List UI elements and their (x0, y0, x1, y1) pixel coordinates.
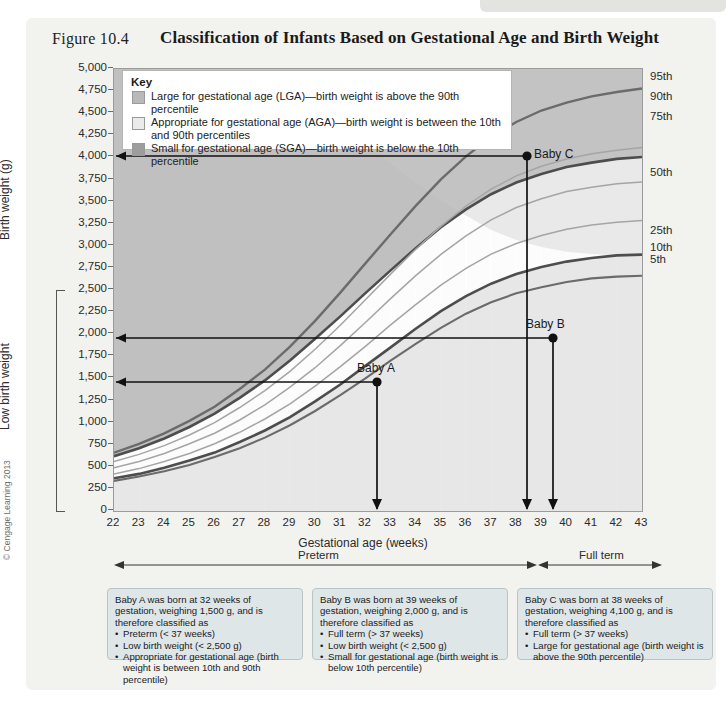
note-b-intro: Baby B was born at 39 weeks of gestation… (320, 594, 500, 628)
figure-page: Figure 10.4 Classification of Infants Ba… (0, 0, 726, 703)
note-a-intro: Baby A was born at 32 weeks of gestation… (115, 594, 295, 628)
note-c-bullets: Full term (> 37 weeks) Large for gestati… (525, 628, 705, 662)
note-c-bullet-1: Full term (> 37 weeks) (525, 628, 705, 639)
note-baby-b: Baby B was born at 39 weeks of gestation… (312, 588, 508, 660)
baby-b-marker (548, 333, 557, 342)
key-title: Key (131, 76, 504, 88)
baby-a-marker (372, 377, 381, 386)
x-tick-27: 27 (227, 516, 251, 528)
y-tick-mark (108, 310, 113, 311)
x-tick-41: 41 (579, 516, 603, 528)
key-item-lga: Large for gestational age (LGA)—birth we… (130, 90, 504, 115)
y-tick-mark (108, 354, 113, 355)
y-tick-3250: 3,250 (51, 216, 107, 228)
baby-c-marker (522, 151, 531, 160)
note-b-bullet-2: Low birth weight (< 2,500 g) (320, 640, 500, 651)
y-tick-mark (108, 133, 113, 134)
lga-swatch-icon (132, 91, 145, 104)
key-item-lga-label: Large for gestational age (LGA)—birth we… (151, 90, 504, 115)
y-tick-mark (108, 487, 113, 488)
x-tick-35: 35 (428, 516, 452, 528)
sga-swatch-icon (132, 143, 145, 156)
y-tick-4500: 4,500 (51, 105, 107, 117)
y-tick-mark (108, 178, 113, 179)
aga-swatch-icon (132, 117, 145, 130)
percentile-label-75th: 75th (650, 110, 672, 122)
key-item-aga: Appropriate for gestational age (AGA)—bi… (130, 116, 504, 141)
percentile-label-50th: 50th (650, 166, 672, 178)
x-axis-label: Gestational age (weeks) (0, 536, 726, 550)
y-tick-2750: 2,750 (51, 260, 107, 272)
x-tick-34: 34 (403, 516, 427, 528)
percentile-label-10th: 10th (650, 241, 672, 253)
y-tick-4000: 4,000 (51, 149, 107, 161)
x-tick-24: 24 (151, 516, 175, 528)
y-tick-mark (108, 465, 113, 466)
note-a-bullet-1: Preterm (< 37 weeks) (115, 628, 295, 639)
note-b-bullet-1: Full term (> 37 weeks) (320, 628, 500, 639)
y-axis-label: Birth weight (g) (0, 159, 12, 240)
y-tick-mark (108, 155, 113, 156)
y-tick-mark (108, 399, 113, 400)
low-birth-weight-bracket (56, 290, 65, 512)
note-a-bullets: Preterm (< 37 weeks) Low birth weight (<… (115, 628, 295, 685)
x-tick-32: 32 (352, 516, 376, 528)
x-tick-26: 26 (202, 516, 226, 528)
x-tick-25: 25 (176, 516, 200, 528)
chart-key: Key Large for gestational age (LGA)—birt… (122, 70, 512, 150)
x-tick-38: 38 (503, 516, 527, 528)
x-tick-33: 33 (378, 516, 402, 528)
note-a-bullet-2: Low birth weight (< 2,500 g) (115, 640, 295, 651)
top-decoration-bar (480, 0, 726, 12)
x-tick-22: 22 (101, 516, 125, 528)
x-tick-42: 42 (604, 516, 628, 528)
y-tick-mark (108, 376, 113, 377)
full-term-label: Full term (574, 549, 629, 561)
x-tick-28: 28 (252, 516, 276, 528)
y-tick-mark (108, 266, 113, 267)
y-tick-3000: 3,000 (51, 238, 107, 250)
x-tick-37: 37 (478, 516, 502, 528)
note-baby-c: Baby C was born at 38 weeks of gestation… (517, 588, 713, 660)
percentile-label-95th: 95th (650, 70, 672, 82)
x-tick-36: 36 (453, 516, 477, 528)
y-tick-mark (108, 67, 113, 68)
y-tick-mark (108, 443, 113, 444)
y-tick-mark (108, 200, 113, 201)
percentile-label-90th: 90th (650, 90, 672, 102)
y-tick-mark (108, 288, 113, 289)
y-tick-mark (108, 244, 113, 245)
preterm-label: Preterm (293, 549, 344, 561)
baby-c-label: Baby C (534, 147, 573, 161)
baby-b-label: Baby B (526, 317, 565, 331)
x-tick-23: 23 (126, 516, 150, 528)
y-tick-mark (108, 89, 113, 90)
y-tick-4750: 4,750 (51, 83, 107, 95)
y-tick-5000: 5,000 (51, 61, 107, 73)
y-tick-mark (108, 421, 113, 422)
x-tick-29: 29 (277, 516, 301, 528)
note-b-bullets: Full term (> 37 weeks) Low birth weight … (320, 628, 500, 674)
y-tick-mark (108, 111, 113, 112)
y-tick-mark (108, 332, 113, 333)
percentile-label-25th: 25th (650, 224, 672, 236)
y-tick-mark (108, 222, 113, 223)
note-c-bullet-2: Large for gestational age (birth weight … (525, 640, 705, 663)
x-tick-30: 30 (302, 516, 326, 528)
x-tick-39: 39 (528, 516, 552, 528)
term-range-bars: Preterm Full term (0, 556, 726, 578)
x-tick-40: 40 (554, 516, 578, 528)
figure-title: Classification of Infants Based on Gesta… (160, 28, 659, 48)
figure-label: Figure 10.4 (52, 30, 129, 48)
copyright-notice: © Cengage Learning 2013 (2, 460, 12, 560)
note-c-intro: Baby C was born at 38 weeks of gestation… (525, 594, 705, 628)
x-tick-43: 43 (629, 516, 653, 528)
key-item-sga-label: Small for gestational age (SGA)—birth we… (151, 142, 504, 167)
percentile-label-5th: 5th (650, 253, 666, 265)
note-a-bullet-3: Appropriate for gestational age (birth w… (115, 651, 295, 685)
y-tick-3750: 3,750 (51, 172, 107, 184)
y-tick-4250: 4,250 (51, 127, 107, 139)
y-tick-3500: 3,500 (51, 194, 107, 206)
key-item-aga-label: Appropriate for gestational age (AGA)—bi… (151, 116, 504, 141)
low-birth-weight-label: Low birth weight (0, 343, 12, 430)
